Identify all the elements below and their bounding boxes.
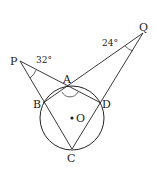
label-q: Q <box>139 21 148 34</box>
label-p: P <box>10 55 18 68</box>
center-dot-o <box>70 116 73 119</box>
angle-arc-q <box>125 46 133 51</box>
angle-arc-a <box>62 92 78 97</box>
label-b: B <box>33 98 41 111</box>
angle-label-p: 32° <box>36 55 52 65</box>
angle-arc-p <box>30 70 36 78</box>
label-a: A <box>62 73 72 86</box>
line-q-b <box>43 33 143 103</box>
angle-label-q: 24° <box>102 38 118 48</box>
geometry-diagram: P Q A B D C O 32° 24° <box>0 0 158 174</box>
label-o: O <box>76 112 85 125</box>
label-c: C <box>67 152 75 165</box>
label-d: D <box>102 98 111 111</box>
